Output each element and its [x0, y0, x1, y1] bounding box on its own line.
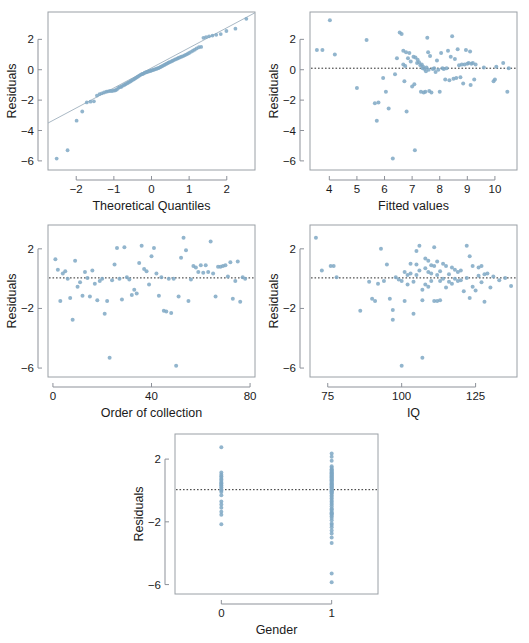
data-point [412, 312, 416, 316]
data-point [127, 277, 131, 281]
data-point [174, 364, 178, 368]
y-tick-label: −2 [21, 302, 34, 314]
data-point [391, 157, 395, 161]
x-tick-label: −1 [107, 183, 120, 195]
data-point [355, 86, 359, 90]
data-point [507, 66, 511, 70]
data-point [425, 36, 429, 40]
data-point [88, 295, 92, 299]
data-point [68, 296, 72, 300]
data-point [243, 277, 247, 281]
data-point [145, 269, 149, 273]
data-point [199, 45, 203, 49]
data-point [439, 51, 443, 55]
data-point [420, 288, 424, 292]
data-point [482, 300, 486, 304]
data-point [226, 274, 230, 278]
data-point [453, 57, 457, 61]
data-point [140, 244, 144, 248]
data-point [429, 91, 433, 95]
data-point [93, 282, 97, 286]
y-tick-label: −4 [21, 125, 35, 137]
data-point [172, 277, 176, 281]
data-point [92, 99, 96, 103]
data-point [373, 299, 377, 303]
data-point [214, 295, 218, 299]
data-point [403, 299, 407, 303]
data-point [474, 62, 478, 66]
data-point [194, 265, 198, 269]
data-point [456, 47, 460, 51]
data-point [435, 59, 439, 63]
data-point [387, 106, 391, 110]
data-point [441, 277, 445, 281]
data-point [505, 90, 509, 94]
data-point [462, 289, 466, 293]
data-point [330, 572, 334, 576]
data-point [330, 507, 334, 511]
data-point [358, 309, 362, 313]
x-tick-label: 7 [409, 183, 415, 195]
data-point [384, 90, 388, 94]
panel-residuals-vs-order: 040802−2−6Order of collectionResiduals [0, 210, 265, 425]
data-point [420, 298, 424, 302]
data-point [375, 119, 379, 123]
data-point [447, 272, 451, 276]
data-point [446, 49, 450, 53]
data-point [435, 260, 439, 264]
y-tick-label: 2 [290, 33, 296, 45]
data-point [406, 283, 410, 287]
data-point [501, 61, 505, 65]
data-point [115, 246, 119, 250]
data-point [465, 244, 469, 248]
data-point [81, 294, 85, 298]
data-point [493, 78, 497, 82]
y-tick-label: 2 [155, 453, 161, 465]
data-point [320, 48, 324, 52]
data-point [381, 76, 385, 80]
data-point [152, 246, 156, 250]
x-tick-label: 0 [148, 183, 154, 195]
data-point [186, 299, 190, 303]
data-points [315, 18, 511, 160]
data-point [219, 32, 223, 36]
qq-reference-line [48, 13, 255, 123]
data-point [403, 270, 407, 274]
x-tick-label: 10 [489, 183, 502, 195]
x-tick-label: 5 [354, 183, 360, 195]
data-point [458, 75, 462, 79]
y-tick-label: 0 [28, 64, 34, 76]
data-point [400, 32, 404, 36]
data-point [468, 254, 472, 258]
y-axis-title: Residuals [267, 64, 281, 119]
y-tick-label: −4 [283, 125, 297, 137]
data-point [95, 298, 99, 302]
panel-residuals-vs-gender: 012−2−6GenderResiduals [130, 420, 400, 643]
data-point [157, 294, 161, 298]
data-point [482, 65, 486, 69]
data-point [164, 309, 168, 313]
panel-residuals-vs-iq: 751001252−2−6IQResiduals [265, 210, 529, 425]
data-point [122, 245, 126, 249]
data-point [423, 266, 427, 270]
data-point [53, 257, 57, 261]
y-tick-label: −6 [283, 362, 296, 374]
data-point [503, 276, 507, 280]
data-point [468, 50, 472, 54]
data-point [207, 34, 211, 38]
data-point [438, 269, 442, 273]
y-tick-label: −6 [21, 155, 34, 167]
y-axis-title: Residuals [132, 487, 146, 542]
data-point [438, 90, 442, 94]
data-point [147, 283, 151, 287]
data-point [56, 268, 60, 272]
data-point [130, 293, 134, 297]
data-points [55, 17, 248, 161]
data-point [184, 248, 188, 252]
data-point [177, 295, 181, 299]
data-point [464, 48, 468, 52]
y-tick-label: 2 [28, 33, 34, 45]
data-point [426, 50, 430, 54]
data-point [206, 270, 210, 274]
data-point [66, 148, 70, 152]
